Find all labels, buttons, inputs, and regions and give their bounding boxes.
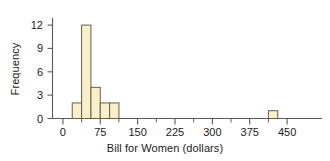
histogram-bar — [268, 111, 277, 119]
x-tick-label: 0 — [60, 126, 66, 138]
plot-area: 0 3 6 9 12 0 75 150 — [0, 0, 330, 161]
x-tick-label: 300 — [203, 126, 221, 138]
histogram-bar — [91, 87, 100, 118]
y-tick-label: 9 — [37, 42, 43, 54]
x-tick-label: 75 — [94, 126, 106, 138]
y-tick-marks — [48, 25, 53, 118]
histogram-bar — [100, 103, 109, 119]
x-axis-title: Bill for Women (dollars) — [0, 142, 330, 154]
y-tick-labels: 0 3 6 9 12 — [31, 19, 43, 124]
x-tick-label: 225 — [166, 126, 184, 138]
histogram-bars — [72, 25, 278, 118]
y-tick-label: 3 — [37, 89, 43, 101]
histogram-bar — [72, 103, 81, 119]
x-tick-label: 450 — [278, 126, 296, 138]
histogram-bar — [110, 103, 119, 119]
x-tick-label: 375 — [241, 126, 259, 138]
y-tick-label: 6 — [37, 66, 43, 78]
histogram-chart: 0 3 6 9 12 0 75 150 — [0, 0, 330, 161]
histogram-bar — [82, 25, 91, 118]
x-tick-labels: 0 75 150 225 300 375 450 — [60, 126, 296, 138]
x-tick-label: 150 — [128, 126, 146, 138]
x-tick-marks — [63, 119, 287, 125]
y-tick-label: 0 — [37, 113, 43, 125]
y-axis-title: Frequency — [9, 24, 21, 114]
y-tick-label: 12 — [31, 19, 43, 31]
